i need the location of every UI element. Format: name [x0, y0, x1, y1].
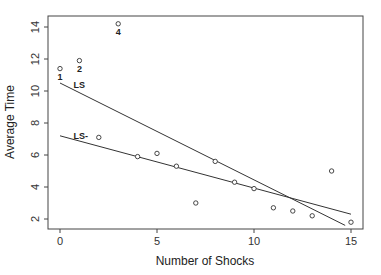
regression-line-ls: [60, 83, 345, 225]
data-point: [291, 209, 295, 213]
regression-line-ls: [60, 136, 351, 214]
data-point: [135, 154, 139, 158]
x-axis: 051015: [57, 229, 357, 247]
data-point: [155, 151, 159, 155]
regression-lines: LSLS-: [60, 80, 351, 226]
x-tick-label: 15: [345, 235, 357, 247]
data-point: [213, 159, 217, 163]
data-point: [174, 164, 178, 168]
y-tick-label: 6: [29, 152, 41, 158]
data-point: [97, 135, 101, 139]
data-point: [116, 22, 120, 26]
point-label: 2: [77, 64, 82, 74]
data-point: [310, 214, 314, 218]
point-label: 4: [116, 27, 121, 37]
data-point: [271, 206, 275, 210]
data-points: 124: [57, 22, 353, 225]
plot-frame: [48, 16, 363, 229]
data-point: [58, 66, 62, 70]
x-tick-label: 5: [154, 235, 160, 247]
data-point: [329, 169, 333, 173]
data-point: [77, 58, 81, 62]
x-tick-label: 0: [57, 235, 63, 247]
point-label: 1: [57, 72, 62, 82]
line-label: LS: [74, 80, 86, 90]
line-label: LS-: [74, 131, 89, 141]
data-point: [232, 180, 236, 184]
y-tick-label: 12: [29, 53, 41, 65]
y-tick-label: 14: [29, 21, 41, 33]
y-tick-label: 8: [29, 120, 41, 126]
y-tick-label: 2: [29, 216, 41, 222]
data-point: [194, 201, 198, 205]
y-axis-label: Average Time: [3, 85, 17, 159]
y-tick-label: 10: [29, 85, 41, 97]
scatter-chart: 2468101214 051015 LSLS- 124 Number of Sh…: [0, 0, 381, 275]
data-point: [252, 186, 256, 190]
x-axis-label: Number of Shocks: [156, 254, 255, 268]
y-axis: 2468101214: [29, 21, 48, 222]
y-tick-label: 4: [29, 184, 41, 190]
data-point: [349, 220, 353, 224]
x-tick-label: 10: [248, 235, 260, 247]
